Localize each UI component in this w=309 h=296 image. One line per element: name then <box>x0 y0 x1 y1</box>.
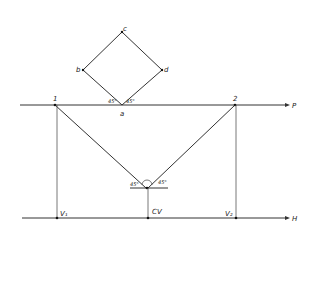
label-point-2: 2 <box>233 95 238 103</box>
angle-station-left: 45° <box>130 181 139 187</box>
perspective-diagram: c b d a 45° 45° 1 2 P 45° 45° V₁ CV V₂ H <box>0 0 309 296</box>
label-point-1: 1 <box>53 95 57 103</box>
station-angle-arc <box>142 180 152 185</box>
plan-square <box>82 31 163 105</box>
label-a: a <box>120 110 124 118</box>
label-v2: V₂ <box>225 210 233 218</box>
angle-station-right: 45° <box>158 179 167 185</box>
angle-top-right: 45° <box>126 98 135 104</box>
label-cv: CV <box>152 208 163 216</box>
label-v1: V₁ <box>60 210 68 218</box>
label-picture-plane: P <box>292 102 297 110</box>
label-d: d <box>164 66 169 74</box>
projector-right <box>148 105 235 188</box>
label-b: b <box>76 66 81 74</box>
projector-left <box>55 105 146 188</box>
label-horizon: H <box>292 215 298 223</box>
label-c: c <box>123 25 127 33</box>
angle-top-left: 45° <box>108 98 117 104</box>
